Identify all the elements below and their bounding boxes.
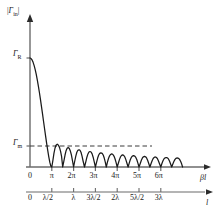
x-tick-label-primary-3: 3π xyxy=(89,172,97,180)
x-tick-label-primary-2: 2π xyxy=(68,172,76,180)
reflection-coefficient-curve xyxy=(30,58,183,167)
x-tick-label-secondary-1: λ/2 xyxy=(43,194,53,202)
x-axis-secondary-arrowhead xyxy=(206,189,213,195)
x-tick-label-primary-6: 6π xyxy=(155,172,163,180)
y-axis-label-bar-close: | xyxy=(18,6,20,15)
y-axis-arrowhead xyxy=(27,14,33,22)
x-axis-primary-label: βl xyxy=(200,174,206,182)
x-tick-label-secondary-4: 2λ xyxy=(111,194,119,202)
x-tick-label-secondary-2: λ xyxy=(72,194,76,202)
x-tick-label-secondary-3: 3λ/2 xyxy=(86,194,100,202)
x-tick-label-primary-4: 4π xyxy=(111,172,119,180)
gamma-m-subscript: m xyxy=(18,143,23,149)
y-axis-label: |Γin| xyxy=(7,7,19,17)
x-axis-secondary-label: l xyxy=(206,199,208,207)
reflection-coefficient-figure xyxy=(0,0,220,214)
x-axis-primary-arrowhead xyxy=(204,164,211,170)
x-tick-label-secondary-5: 5λ/2 xyxy=(130,194,144,202)
x-tick-label-primary-0: 0 xyxy=(28,172,32,180)
x-tick-label-secondary-6: 3λ xyxy=(155,194,163,202)
gamma-r-subscript: R xyxy=(18,54,22,60)
x-tick-label-secondary-0: 0 xyxy=(28,194,32,202)
chart-svg xyxy=(0,0,220,214)
x-tick-label-primary-1: π xyxy=(50,172,54,180)
y-tick-label-gamma-r: ΓR xyxy=(13,50,22,60)
y-tick-label-gamma-m: Γm xyxy=(13,139,22,149)
x-tick-label-primary-5: 5π xyxy=(133,172,141,180)
